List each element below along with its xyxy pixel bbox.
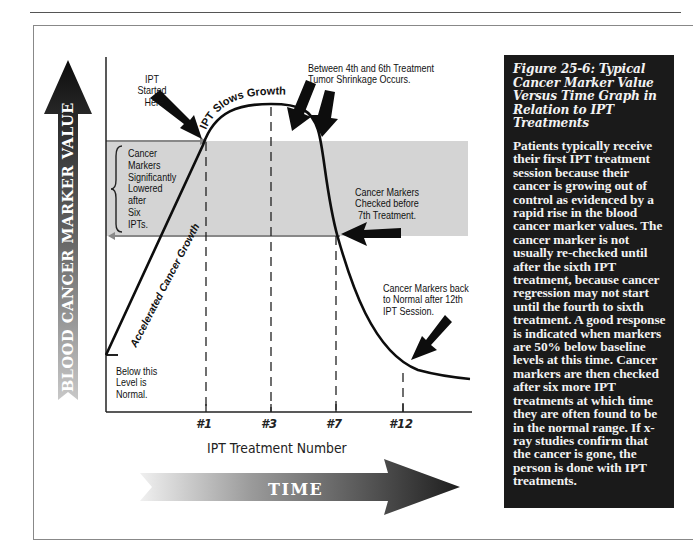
shrinkage-label: Between 4th and 6th Treatment Tumor Shri… — [308, 63, 434, 86]
back-to-normal-line-3: IPT Session. — [383, 306, 469, 317]
back-to-normal-line-2: to Normal after 12th — [383, 294, 469, 305]
tick-label-12: #12 — [389, 417, 413, 431]
x-axis-title: IPT Treatment Number — [207, 440, 347, 456]
ipt-started-label: IPT Started Here. — [135, 74, 169, 108]
below-normal-label: Below this Level is Normal. — [116, 366, 157, 400]
ipt-started-line-3: Here. — [135, 97, 169, 108]
y-axis-arrow: Blood Cancer Marker Value — [44, 60, 92, 400]
band-note-line-6: Six — [128, 207, 176, 219]
band-note-label: Cancer Markers Significantly Lowered aft… — [128, 148, 176, 231]
figure-caption-panel: Figure 25-6: Typical Cancer Marker Value… — [504, 55, 674, 508]
band-note-line-2: Markers — [128, 160, 176, 172]
checked-label: Cancer Markers Checked before 7th Treatm… — [348, 187, 425, 221]
figure-caption-body: Patients typically receive their first I… — [513, 139, 666, 488]
below-normal-line-3: Normal. — [116, 389, 157, 400]
y-axis-arrow-label: Blood Cancer Marker Value — [59, 102, 77, 392]
tick-label-1: #1 — [196, 417, 212, 431]
shrinkage-line-2: Tumor Shrinkage Occurs. — [308, 74, 434, 85]
shrinkage-arrow-2 — [311, 90, 338, 137]
ipt-started-line-2: Started — [135, 85, 169, 96]
time-arrow: Time — [140, 459, 460, 515]
tick-label-3: #3 — [261, 417, 277, 431]
time-arrow-label: Time — [268, 480, 323, 499]
band-note-line-7: IPTs. — [128, 219, 176, 231]
x-axis-ticks — [206, 404, 403, 412]
back-to-normal-arrow — [411, 315, 452, 360]
back-to-normal-label: Cancer Markers back to Normal after 12th… — [383, 283, 469, 317]
checked-line-2: Checked before — [348, 198, 425, 209]
below-normal-line-2: Level is — [116, 377, 157, 388]
checked-line-3: 7th Treatment. — [348, 210, 425, 221]
tick-label-7: #7 — [326, 417, 342, 431]
figure-caption-title: Figure 25-6: Typical Cancer Marker Value… — [513, 63, 666, 131]
